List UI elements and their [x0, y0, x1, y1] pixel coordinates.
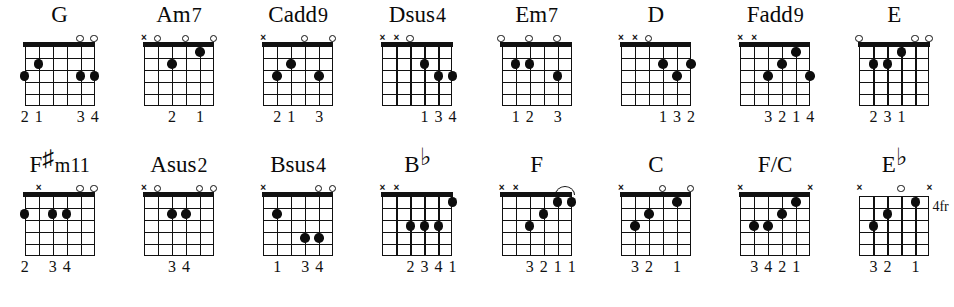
- fret-position-label: 4fr: [932, 200, 948, 214]
- fret-line: [621, 244, 691, 245]
- finger-number: 2: [642, 258, 656, 276]
- finger-dot: [911, 197, 921, 207]
- fret-line: [502, 94, 572, 95]
- finger-number: 2: [165, 108, 179, 126]
- finger-dot: [20, 209, 30, 219]
- fret-line: [144, 220, 214, 221]
- string-line: [396, 46, 397, 106]
- string-line: [887, 46, 888, 106]
- fret-line: [502, 208, 572, 209]
- chord-name: Em7: [515, 2, 558, 32]
- fret-line: [502, 70, 572, 71]
- fret-line: [25, 232, 95, 233]
- chord-root: C: [648, 152, 663, 178]
- finger-number: 4: [88, 108, 102, 126]
- string-line: [530, 46, 531, 106]
- finger-dot: [300, 233, 310, 243]
- fret-grid: [263, 196, 333, 256]
- finger-dot: [272, 71, 282, 81]
- fingering-numbers: 123: [496, 108, 578, 128]
- finger-number: 3: [312, 108, 326, 126]
- chord-name: G: [51, 2, 68, 32]
- nut-bar: [143, 42, 215, 47]
- chord-root: Fadd: [747, 2, 793, 28]
- fret-line: [621, 232, 691, 233]
- chord-root: F: [530, 152, 543, 178]
- finger-dot: [272, 209, 282, 219]
- finger-number: 3: [747, 258, 761, 276]
- finger-dot: [434, 71, 444, 81]
- fingering-numbers: 231: [853, 108, 935, 128]
- finger-number: 2: [537, 258, 551, 276]
- fret-line: [382, 244, 452, 245]
- chord-card: C×321: [596, 152, 715, 268]
- fret-line: [621, 208, 691, 209]
- chord-name: Fadd9: [747, 2, 804, 32]
- fret-line: [621, 58, 691, 59]
- fret-line: [859, 82, 929, 83]
- finger-dot: [777, 209, 787, 219]
- chord-card: Am7×21: [119, 2, 238, 118]
- chord-name: Am7: [156, 2, 202, 32]
- finger-dot: [658, 59, 668, 69]
- chord-diagram: ××4fr321: [853, 182, 935, 268]
- fret-line: [25, 70, 95, 71]
- string-line: [53, 196, 54, 256]
- finger-number: 3: [880, 108, 894, 126]
- fret-line: [263, 82, 333, 83]
- chord-root: D: [648, 2, 665, 28]
- fret-line: [25, 94, 95, 95]
- finger-number: 3: [628, 258, 642, 276]
- fret-line: [621, 70, 691, 71]
- chord-card: Em7123: [477, 2, 596, 118]
- fret-grid: [740, 46, 810, 106]
- chord-name: D: [648, 2, 665, 32]
- finger-number: 2: [270, 108, 284, 126]
- fret-line: [263, 58, 333, 59]
- fret-line: [263, 244, 333, 245]
- nut-bar: [739, 192, 811, 197]
- finger-dot: [448, 197, 458, 207]
- chord-root: E: [882, 152, 896, 178]
- finger-number: 4: [431, 258, 445, 276]
- finger-dot: [630, 221, 640, 231]
- chord-chart-sheet: G2134Am7×21Cadd9×213Dsus4××134Em7123D××1…: [0, 0, 954, 307]
- finger-number: 2: [775, 258, 789, 276]
- chord-card: F××3211: [477, 152, 596, 268]
- muted-string-marker: ×: [855, 183, 864, 192]
- fingering-numbers: 34: [138, 258, 220, 278]
- grid-border: [263, 196, 333, 256]
- string-line: [172, 196, 173, 256]
- top-row: G2134Am7×21Cadd9×213Dsus4××134Em7123D××1…: [0, 2, 954, 118]
- chord-name: Asus2: [150, 152, 207, 182]
- finger-number: 1: [32, 108, 46, 126]
- fingering-numbers: 2341: [376, 258, 458, 278]
- fingering-numbers: 134: [257, 258, 339, 278]
- string-line: [782, 196, 783, 256]
- muted-string-marker: ×: [925, 183, 934, 192]
- finger-dot: [314, 71, 324, 81]
- finger-dot: [553, 71, 563, 81]
- chord-suffix: 9: [318, 2, 328, 28]
- fret-line: [502, 82, 572, 83]
- nut-bar: [500, 42, 572, 47]
- finger-dot: [763, 221, 773, 231]
- grid-border: [859, 46, 929, 106]
- chord-diagram: ×34: [138, 182, 220, 268]
- grid-border: [25, 196, 95, 256]
- fret-line: [382, 220, 452, 221]
- string-line: [424, 46, 425, 106]
- string-line: [39, 46, 40, 106]
- finger-number: 4: [803, 108, 817, 126]
- finger-dot: [420, 221, 430, 231]
- fret-line: [502, 220, 572, 221]
- string-line: [901, 196, 902, 256]
- chord-suffix: m11: [55, 152, 90, 178]
- chord-root: Bsus: [270, 152, 315, 178]
- fret-grid: [740, 196, 810, 256]
- chord-card: Bsus4×134: [239, 152, 358, 268]
- string-line: [277, 196, 278, 256]
- finger-number: 2: [18, 258, 32, 276]
- fret-line: [621, 82, 691, 83]
- fret-line: [144, 70, 214, 71]
